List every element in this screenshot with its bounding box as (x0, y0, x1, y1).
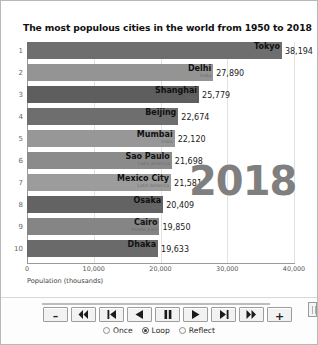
skip-to-start-icon (78, 310, 89, 319)
radio-label: Loop (152, 326, 170, 335)
play-reverse-icon (135, 310, 144, 319)
pause-icon (164, 310, 172, 319)
value-label: 38,194 (285, 46, 313, 55)
step-backward-button[interactable] (99, 307, 124, 322)
rank-label: 6 (19, 157, 23, 165)
region-label: Asia (155, 96, 197, 101)
radio-reflect[interactable]: Reflect (179, 326, 215, 335)
rank-label: 9 (19, 223, 23, 231)
bar-row[interactable]: 4BeijingAsia22,674 (27, 108, 178, 125)
city-name-label: Osaka (134, 197, 162, 205)
rank-label: 10 (14, 245, 23, 253)
radio-once[interactable]: Once (103, 326, 133, 335)
city-name-label: Mexico City (117, 175, 169, 183)
step-backward-icon (107, 310, 117, 319)
bar-row[interactable]: 7Mexico CityLatin America21,581 (27, 174, 171, 191)
jump-to-end-button[interactable] (239, 307, 264, 322)
region-label: Asia (145, 118, 176, 123)
play-reverse-button[interactable] (127, 307, 152, 322)
value-label: 21,698 (175, 156, 203, 165)
radio-loop[interactable]: Loop (142, 326, 170, 335)
value-label: 20,409 (166, 200, 194, 209)
x-tick-label: 40,000 (283, 265, 305, 273)
bar-row[interactable]: 2DelhiIndia27,890 (27, 64, 213, 81)
region-label: India (137, 140, 173, 145)
bar-label-group: MumbaiIndia (137, 131, 173, 145)
city-name-label: Delhi (188, 65, 211, 73)
chart-title: The most populous cities in the world fr… (23, 22, 312, 33)
x-tick-label: 10,000 (83, 265, 105, 273)
rank-label: 8 (19, 201, 23, 209)
rank-label: 1 (19, 47, 23, 55)
region-label: India (188, 74, 211, 79)
x-axis-line (27, 263, 295, 264)
x-axis-label: Population (thousands) (27, 277, 103, 285)
bar-row[interactable]: 1TokyoAsia38,194 (27, 42, 282, 59)
pause-button[interactable] (155, 307, 180, 322)
bar-label-group: DelhiIndia (188, 65, 211, 79)
bar-row[interactable]: 3ShanghaiAsia25,779 (27, 86, 199, 103)
city-name-label: Sao Paulo (125, 153, 169, 161)
bar-label-group: ShanghaiAsia (155, 87, 197, 101)
value-label: 25,779 (202, 90, 230, 99)
value-label: 27,890 (216, 68, 244, 77)
bar-row[interactable]: 10DhakaAsia19,633 (27, 240, 158, 257)
bar-label-group: Mexico CityLatin America (117, 175, 169, 189)
x-tick-label: 20,000 (149, 265, 171, 273)
city-name-label: Dhaka (128, 241, 156, 249)
animation-player: –+ OnceLoopReflect (1, 297, 317, 344)
region-label: Asia (134, 206, 162, 211)
radio-dot-icon[interactable] (142, 327, 149, 334)
city-name-label: Tokyo (254, 43, 280, 51)
radio-label: Reflect (189, 326, 215, 335)
player-button-row: –+ (43, 307, 292, 322)
radio-dot-icon[interactable] (179, 327, 186, 334)
value-label: 19,850 (162, 222, 190, 231)
city-name-label: Cairo (131, 219, 158, 227)
region-label: Middle East (131, 228, 158, 233)
region-label: Asia (128, 250, 156, 255)
radio-label: Once (113, 326, 133, 335)
bar-label-group: Sao PauloLatin America (125, 153, 169, 167)
city-name-label: Mumbai (137, 131, 173, 139)
plus-icon: + (275, 305, 284, 324)
rank-label: 5 (19, 135, 23, 143)
decrease-speed-button[interactable]: – (43, 307, 68, 322)
rank-label: 3 (19, 91, 23, 99)
city-name-label: Shanghai (155, 87, 197, 95)
rank-label: 4 (19, 113, 23, 121)
bar[interactable] (27, 42, 282, 59)
bar-row[interactable]: 6Sao PauloLatin America21,698 (27, 152, 172, 169)
bar-label-group: CairoMiddle East (131, 219, 158, 233)
value-label: 19,633 (161, 244, 189, 253)
radio-dot-icon[interactable] (103, 327, 110, 334)
play-button[interactable] (183, 307, 208, 322)
gridline (294, 42, 295, 263)
bar-label-group: DhakaAsia (128, 241, 156, 255)
x-tick-label: 0 (25, 265, 29, 273)
value-label: 22,120 (178, 134, 206, 143)
bar-row[interactable]: 9CairoMiddle East19,850 (27, 218, 159, 235)
bar-row[interactable]: 5MumbaiIndia22,120 (27, 130, 175, 147)
bar-label-group: TokyoAsia (254, 43, 280, 57)
x-tick-label: 30,000 (216, 265, 238, 273)
chart-panel: The most populous cities in the world fr… (1, 1, 317, 297)
bar-label-group: OsakaAsia (134, 197, 162, 211)
skip-to-end-icon (246, 310, 257, 319)
step-forward-icon (219, 310, 229, 319)
jump-to-start-button[interactable] (71, 307, 96, 322)
bar[interactable] (27, 64, 213, 81)
rank-label: 2 (19, 69, 23, 77)
increase-speed-button[interactable]: + (267, 307, 292, 322)
loop-mode-radio-group: OnceLoopReflect (1, 326, 317, 335)
timeline-slider[interactable] (42, 303, 270, 305)
step-forward-button[interactable] (211, 307, 236, 322)
region-label: Latin America (125, 162, 169, 167)
play-icon (191, 310, 200, 319)
bar-label-group: BeijingAsia (145, 109, 176, 123)
region-label: Latin America (117, 184, 169, 189)
timeline-slider-thumb[interactable] (308, 302, 317, 317)
value-label: 21,581 (174, 178, 202, 187)
plot-area: 1TokyoAsia38,1942DelhiIndia27,8903Shangh… (27, 42, 294, 263)
bar-row[interactable]: 8OsakaAsia20,409 (27, 196, 163, 213)
